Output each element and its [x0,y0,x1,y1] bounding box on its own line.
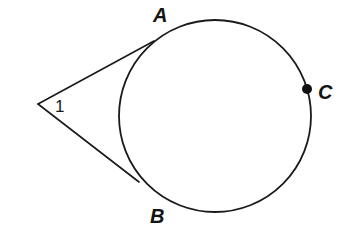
point-a-label: A [152,4,167,26]
point-c-dot [302,84,312,94]
geometry-canvas: 1 A B C [0,0,352,242]
circle-shape [119,20,311,212]
tangent-line-to-a [38,41,154,104]
tangent-line-to-b [38,104,139,182]
point-c-label: C [318,81,333,103]
point-b-label: B [150,205,164,227]
angle-1-label: 1 [55,97,64,116]
geometry-figure: 1 A B C [0,0,352,242]
